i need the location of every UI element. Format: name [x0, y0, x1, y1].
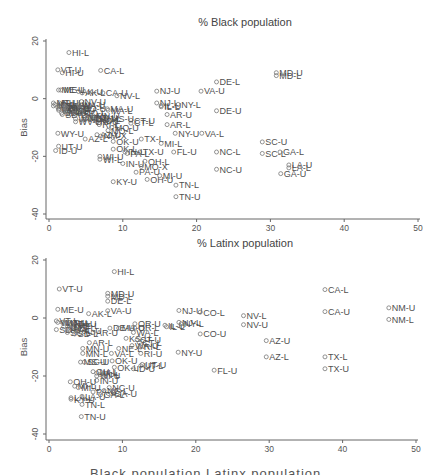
- data-point-marker: [145, 177, 149, 181]
- data-point-label: AZ-L: [269, 352, 289, 362]
- data-point-marker: [387, 306, 391, 310]
- y-axis-label: Bias: [18, 338, 29, 357]
- data-point-label: HI-L: [72, 48, 89, 58]
- data-point-marker: [99, 68, 103, 72]
- data-point-marker: [124, 336, 128, 340]
- y-tick-label: 0: [30, 315, 40, 320]
- data-point-marker: [215, 80, 219, 84]
- data-point-marker: [111, 180, 115, 184]
- data-point-label: CO-U: [203, 329, 226, 339]
- data-point-marker: [54, 149, 58, 153]
- data-point-label: MD-L: [279, 71, 301, 81]
- data-point-label: NC-L: [220, 147, 241, 157]
- data-point-label: SC-U: [87, 357, 109, 367]
- y-tick-label: -40: [30, 428, 40, 441]
- data-point-label: WI-U: [103, 152, 124, 162]
- y-axis-label: Bias: [18, 118, 29, 137]
- data-point-marker: [172, 150, 176, 154]
- x-tick-label: 40: [338, 444, 348, 454]
- data-point-label: VT-U: [62, 284, 83, 294]
- data-point-marker: [177, 308, 181, 312]
- data-point-label: ME-U: [61, 305, 84, 315]
- data-point-label: AR-L: [170, 120, 191, 130]
- data-point-marker: [215, 109, 219, 113]
- data-point-marker: [199, 89, 203, 93]
- data-point-label: IN-L: [128, 147, 145, 157]
- data-point-marker: [200, 131, 204, 135]
- data-point-marker: [264, 355, 268, 359]
- data-point-marker: [215, 167, 219, 171]
- data-point-label: CA-L: [328, 285, 349, 295]
- data-point-marker: [74, 120, 78, 124]
- data-point-marker: [212, 368, 216, 372]
- data-point-label: HI-U: [65, 68, 84, 78]
- data-point-marker: [57, 287, 61, 291]
- data-point-marker: [56, 68, 60, 72]
- data-point-marker: [165, 123, 169, 127]
- data-point-marker: [54, 328, 58, 332]
- data-point-label: AZ-U: [269, 336, 290, 346]
- black-population-panel: % Black population-40-2002001020304050Bi…: [0, 0, 441, 235]
- data-point-label: NC-U: [220, 165, 243, 175]
- data-point-marker: [139, 137, 143, 141]
- x-tick-label: 0: [47, 444, 52, 454]
- latinx-population-panel: % Latinx population-40-2002001020304050B…: [0, 235, 441, 465]
- data-point-label: RI-U: [144, 349, 163, 359]
- data-point-label: NY-U: [178, 129, 199, 139]
- data-point-marker: [323, 355, 327, 359]
- data-point-label: VA-U: [111, 306, 132, 316]
- data-point-marker: [323, 310, 327, 314]
- data-point-label: CA-U: [328, 307, 350, 317]
- data-point-label: DE-U: [220, 106, 242, 116]
- data-point-label: WV-L: [79, 117, 101, 127]
- data-point-marker: [242, 323, 246, 327]
- data-point-label: WY-U: [61, 129, 84, 139]
- panel-title: % Latinx population: [197, 237, 293, 249]
- x-tick-label: 10: [118, 223, 128, 233]
- data-point-label: NM-L: [392, 315, 414, 325]
- x-tick-label: 30: [264, 444, 274, 454]
- data-point-marker: [134, 170, 138, 174]
- data-point-marker: [260, 151, 264, 155]
- x-tick-label: 50: [413, 223, 423, 233]
- data-point-marker: [81, 351, 85, 355]
- data-point-marker: [68, 380, 72, 384]
- data-point-marker: [56, 131, 60, 135]
- figure-caption: Black population Latinx population: [90, 466, 321, 475]
- data-point-label: TN-U: [179, 192, 201, 202]
- data-point-marker: [279, 172, 283, 176]
- data-point-label: NY-L: [181, 100, 201, 110]
- data-point-label: WA-L: [82, 101, 104, 111]
- data-point-marker: [323, 288, 327, 292]
- data-points: HI-LVT-UMD-UMD-LDE-LME-UAK-LVA-UNJ-UCO-L…: [54, 267, 415, 422]
- data-points: HI-LVT-UHI-UCA-LMD-UMD-LDE-LNJ-UVA-UME-U…: [51, 48, 312, 202]
- black-population-scatter: % Black population-40-2002001020304050Bi…: [0, 0, 441, 235]
- data-point-marker: [260, 140, 264, 144]
- data-point-label: GA-L: [283, 147, 304, 157]
- data-point-marker: [215, 150, 219, 154]
- x-tick-label: 20: [192, 223, 202, 233]
- data-point-label: ID-U: [59, 146, 78, 156]
- latinx-population-scatter: % Latinx population-40-2002001020304050B…: [0, 235, 441, 465]
- data-point-marker: [387, 317, 391, 321]
- data-point-label: TN-L: [179, 180, 199, 190]
- x-tick-label: 30: [266, 223, 276, 233]
- data-point-label: NV-L: [120, 91, 140, 101]
- data-point-marker: [155, 101, 159, 105]
- data-point-label: VA-L: [205, 129, 224, 139]
- data-point-marker: [87, 312, 91, 316]
- y-tick-label: 0: [30, 96, 40, 101]
- data-point-marker: [165, 113, 169, 117]
- data-point-marker: [264, 339, 268, 343]
- data-point-marker: [112, 270, 116, 274]
- data-point-label: CA-L: [104, 66, 125, 76]
- data-point-label: VA-U: [204, 86, 225, 96]
- data-point-label: CO-L: [203, 308, 225, 318]
- data-point-marker: [111, 147, 115, 151]
- data-point-marker: [79, 415, 83, 419]
- panel-title: % Black population: [198, 16, 292, 28]
- y-tick-label: 20: [30, 36, 40, 46]
- data-point-label: FL-U: [217, 366, 237, 376]
- data-point-label: DE-L: [111, 296, 132, 306]
- data-point-marker: [155, 89, 159, 93]
